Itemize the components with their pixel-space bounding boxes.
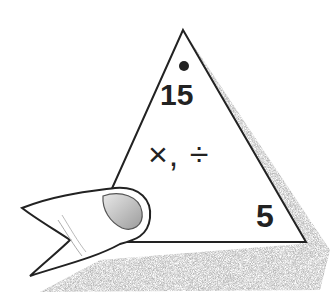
top-number: 15 [160,78,193,112]
corner-number: 5 [256,198,274,235]
dot-marker [179,61,189,71]
operations-label: ×, ÷ [148,135,209,174]
fact-triangle-illustration: 15 ×, ÷ 5 [0,0,331,295]
